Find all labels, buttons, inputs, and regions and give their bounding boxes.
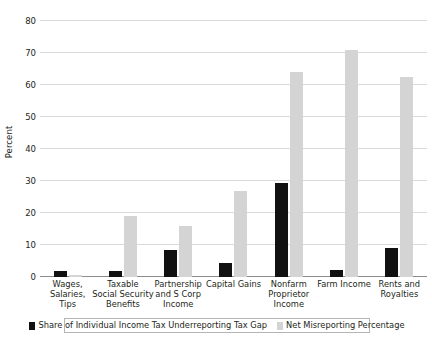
bar	[290, 72, 303, 277]
bar	[345, 50, 358, 277]
y-axis-tick-label: 80	[2, 17, 36, 26]
x-axis-category-label-line: Proprietor	[255, 289, 322, 299]
bar	[275, 183, 288, 277]
bar-group	[40, 21, 95, 277]
legend-item: Net Misreporting Percentage	[277, 321, 404, 330]
y-axis-tick-label: 0	[2, 273, 36, 282]
bar-group	[206, 21, 261, 277]
y-axis-tick-label: 50	[2, 113, 36, 122]
y-axis-tick-label: 20	[2, 209, 36, 218]
bar	[219, 263, 232, 277]
y-axis-tick-labels: 01020304050607080	[0, 21, 36, 277]
chart-legend: Share of Individual Income Tax Underrepo…	[64, 318, 370, 333]
x-axis-category-label-line: and S Corp	[145, 289, 212, 299]
y-axis-tick-label: 70	[2, 49, 36, 58]
bar	[330, 270, 343, 277]
x-axis-category-label: Rents andRoyalties	[366, 279, 432, 299]
bar	[69, 275, 82, 277]
legend-swatch	[29, 322, 35, 330]
y-axis-tick-label: 30	[2, 177, 36, 186]
bar-group	[261, 21, 316, 277]
x-axis-category-labels: Wages, Salaries,TipsTaxableSocial Securi…	[40, 279, 427, 313]
x-axis-category-label-line: Income	[255, 299, 322, 309]
bar	[400, 77, 413, 277]
bar	[54, 271, 67, 277]
bar-group	[372, 21, 427, 277]
x-axis-category-label-line: Rents and	[366, 279, 432, 289]
bar	[179, 226, 192, 277]
bar	[109, 271, 122, 277]
bar-group	[95, 21, 150, 277]
bar	[164, 250, 177, 277]
y-axis-tick-label: 10	[2, 241, 36, 250]
bar-group	[316, 21, 371, 277]
bar-group	[151, 21, 206, 277]
bar-chart: Percent 01020304050607080 Wages, Salarie…	[0, 0, 432, 343]
bar	[124, 216, 137, 277]
bar	[385, 248, 398, 277]
legend-label: Net Misreporting Percentage	[286, 321, 404, 330]
legend-label: Share of Individual Income Tax Underrepo…	[38, 321, 267, 330]
x-axis-category-label-line: Income	[145, 299, 212, 309]
legend-item: Share of Individual Income Tax Underrepo…	[29, 321, 267, 330]
bar	[234, 191, 247, 277]
y-axis-tick-label: 60	[2, 81, 36, 90]
x-axis-category-label-line: Royalties	[366, 289, 432, 299]
bars-layer	[40, 21, 427, 277]
y-axis-tick-label: 40	[2, 145, 36, 154]
legend-swatch	[277, 322, 283, 330]
